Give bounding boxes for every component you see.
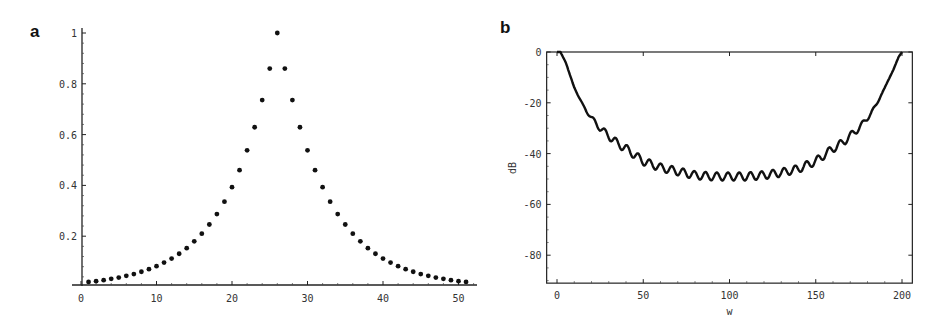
response-curve bbox=[557, 52, 902, 181]
x-tick-label: 50 bbox=[637, 290, 649, 301]
x-tick-label: 100 bbox=[720, 290, 738, 301]
x-axis-title: w bbox=[726, 306, 733, 317]
x-tick-label: 0 bbox=[554, 290, 560, 301]
y-tick-label: -60 bbox=[524, 199, 542, 210]
y-axis-title: dB bbox=[507, 162, 518, 174]
plot-frame bbox=[547, 52, 913, 283]
chart-b-frequency-response: 0-20-40-60-80050100150200wdB bbox=[0, 0, 948, 334]
y-tick-label: -20 bbox=[524, 98, 542, 109]
x-tick-label: 200 bbox=[893, 290, 911, 301]
x-tick-label: 150 bbox=[807, 290, 825, 301]
y-tick-label: -80 bbox=[524, 250, 542, 261]
y-tick-label: -40 bbox=[524, 149, 542, 160]
y-tick-label: 0 bbox=[536, 47, 542, 58]
